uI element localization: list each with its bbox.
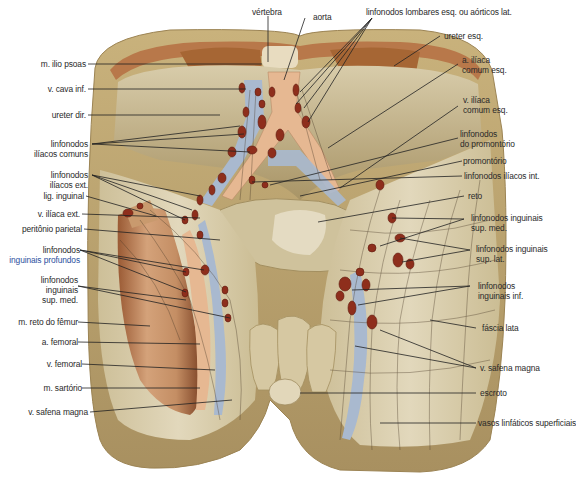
label-v-cava-inf: v. cava inf. <box>48 84 86 94</box>
label-linfonodos-iliacos-comuns: linfonodosilíacos comuns <box>34 139 88 159</box>
label-linfonodos-inguinais-sup-med-left: linfonodosinguinaissup. med. <box>41 275 78 305</box>
label-lig-inguinal: lig. inguinal <box>43 191 84 201</box>
label-v-iliaca-ext: v. ilíaca ext. <box>38 209 80 219</box>
label-promontorio: promontório <box>463 156 507 166</box>
label-linfonodos-inguinais-inf: linfonodosinguinais inf. <box>478 281 523 301</box>
label-m-reto-do-femur: m. reto do fêmur <box>18 317 78 327</box>
label-linfonodos-lombares: linfonodos lombares esq. ou aórticos lat… <box>366 7 512 17</box>
label-linfonodos-inguinais-sup-med-right: linfonodos inguinaissup. med. <box>471 213 543 233</box>
label-m-ilio-psoas: m. ilio psoas <box>41 59 86 69</box>
label-reto: reto <box>468 191 482 201</box>
label-linfonodos-inguinais-profundos: linfonodosinguinais profundos <box>9 245 80 265</box>
label-linfonodos-iliacos-int: linfonodos ilíacos int. <box>464 171 539 181</box>
label-peritonio-parietal: peritônio parietal <box>22 224 82 234</box>
label-m-sartorio: m. sartório <box>44 383 82 393</box>
label-ureter-dir: ureter dir. <box>52 110 86 120</box>
label-v-safena-magna-right: v. safena magna <box>480 363 540 373</box>
label-escroto: escroto <box>480 388 507 398</box>
label-linfonodos-do-promontorio: linfonodosdo promontório <box>460 129 515 149</box>
label-fascia-lata: fáscia lata <box>482 323 519 333</box>
label-v-safena-magna-left: v. safena magna <box>28 407 88 417</box>
label-vertebra: vértebra <box>252 7 282 17</box>
label-a-femoral: a. femoral <box>42 337 78 347</box>
label-linfonodos-iliacos-ext: linfonodosilíacos ext. <box>50 170 88 190</box>
label-v-femoral: v. femoral <box>47 359 82 369</box>
label-aorta: aorta <box>313 12 332 22</box>
anatomy-figure: vértebra aorta linfonodos lombares esq. … <box>0 0 576 483</box>
label-ureter-esq: ureter esq. <box>444 31 483 41</box>
label-a-iliaca-comum-esq: a. ilíacacomum esq. <box>462 55 507 75</box>
label-vasos-linfaticos-superficiais: vasos linfáticos superficiais <box>478 418 576 428</box>
label-linfonodos-inguinais-sup-lat: linfonodos inguinaissup. lat. <box>476 244 548 264</box>
label-v-iliaca-comum-esq: v. ilíacacomum esq. <box>463 95 508 115</box>
